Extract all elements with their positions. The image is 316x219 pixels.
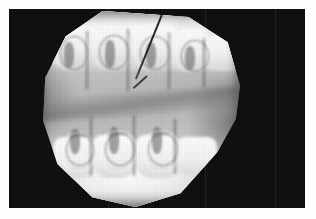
radiolucent-margin <box>66 134 95 165</box>
tooth-lower-4 <box>176 113 217 176</box>
film-field <box>9 9 305 208</box>
radiograph-exposure-area <box>37 11 242 207</box>
radiolucent-margin <box>99 35 130 70</box>
occlusal-plane-gap <box>41 86 239 121</box>
tooth-crown <box>176 137 217 176</box>
radiolucent-margin <box>181 40 210 71</box>
radiograph-page <box>0 0 316 219</box>
radiolucent-margin <box>105 133 136 166</box>
tooth-crown <box>205 35 240 70</box>
tooth-upper-5 <box>205 35 240 92</box>
radiolucent-margin <box>148 133 179 166</box>
radiolucent-margin <box>60 36 89 69</box>
scan-seam-line <box>275 9 276 208</box>
